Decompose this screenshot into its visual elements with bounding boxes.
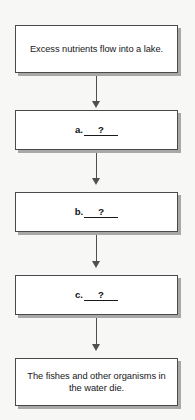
- flow-node-2-label: a.: [75, 124, 83, 135]
- arrow-2-line: [96, 153, 97, 181]
- flow-node-4-slot: ?: [84, 289, 118, 301]
- flow-node-5: The fishes and other organisms in the wa…: [15, 358, 178, 406]
- arrow-1-head-icon: [92, 101, 100, 108]
- arrow-3-head-icon: [92, 261, 100, 268]
- flow-node-5-text: The fishes and other organisms in the wa…: [24, 370, 169, 395]
- flow-node-2-slot: ?: [84, 124, 118, 136]
- flow-node-2: a. ?: [15, 110, 178, 150]
- flow-node-3: b. ?: [15, 192, 178, 232]
- flow-node-3-label: b.: [75, 206, 84, 217]
- flowchart: Excess nutrients flow into a lake. a. ? …: [0, 0, 195, 420]
- flow-node-3-slot: ?: [84, 206, 118, 218]
- flow-node-4: c. ?: [15, 275, 178, 315]
- flow-node-1-text: Excess nutrients flow into a lake.: [30, 43, 163, 56]
- arrow-2-head-icon: [92, 178, 100, 185]
- flow-node-4-label: c.: [75, 289, 83, 300]
- arrow-3-line: [96, 235, 97, 264]
- flow-node-2-blank: a. ?: [75, 124, 118, 136]
- flow-node-4-blank: c. ?: [75, 289, 118, 301]
- arrow-4-line: [96, 318, 97, 347]
- flow-node-3-blank: b. ?: [75, 206, 119, 218]
- flow-node-1: Excess nutrients flow into a lake.: [15, 25, 178, 73]
- arrow-4-head-icon: [92, 344, 100, 351]
